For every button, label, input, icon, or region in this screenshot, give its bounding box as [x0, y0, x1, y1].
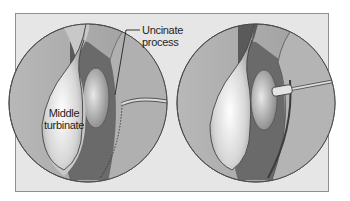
middle-label-line1: Middle [44, 107, 84, 119]
middle-label-line2: turbinate [44, 119, 84, 131]
uncinate-label-line2: process [142, 36, 183, 48]
middle-turbinate-label: Middle turbinate [44, 107, 84, 131]
right-endoscopic-view [177, 24, 343, 182]
uncinate-process-label: Uncinate process [142, 24, 183, 48]
uncinate-label-line1: Uncinate [142, 24, 183, 36]
